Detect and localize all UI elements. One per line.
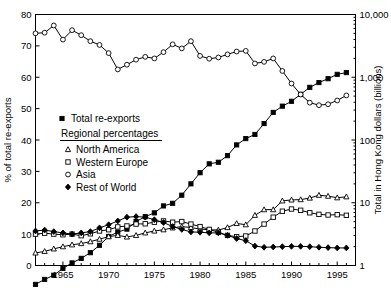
data-point [280, 209, 284, 213]
data-point [280, 104, 284, 108]
data-point [271, 215, 275, 219]
data-point [298, 243, 303, 249]
legend: Total re-exportsRegional percentagesNort… [60, 113, 162, 193]
y-tick-label: 20 [21, 197, 32, 208]
data-point [134, 222, 138, 226]
data-point [65, 147, 70, 152]
data-point [335, 72, 339, 76]
data-point [115, 218, 120, 224]
data-point [152, 56, 157, 61]
data-point [189, 182, 193, 186]
y-axis-title: % of total re-exports [2, 97, 13, 182]
y2-tick-label: 10,000 [360, 9, 389, 20]
data-point [344, 93, 349, 98]
y-tick-label: 0 [26, 260, 31, 271]
data-point [262, 59, 267, 64]
data-point [289, 99, 293, 103]
data-point [66, 172, 71, 177]
data-point [344, 71, 348, 75]
data-point [88, 39, 93, 44]
legend-item-label: North America [76, 144, 140, 155]
data-point [225, 154, 229, 158]
data-point [317, 103, 322, 108]
data-point [143, 54, 148, 59]
data-point [243, 238, 248, 244]
legend-item-label: Asia [76, 169, 96, 180]
data-point [216, 55, 221, 60]
data-point [42, 30, 47, 35]
data-point [308, 85, 312, 89]
y-tick-label: 50 [21, 103, 32, 114]
data-point [161, 204, 165, 208]
data-point [307, 244, 312, 250]
data-point [125, 62, 130, 67]
data-point [344, 213, 348, 217]
x-axis: 1965197019751980198519901995 [45, 262, 356, 280]
data-point [289, 81, 294, 86]
y-axis-right: 1101001,00010,000Total in Hong Kong doll… [352, 9, 389, 271]
data-point [33, 282, 37, 286]
data-point [335, 98, 340, 103]
data-point [271, 56, 276, 61]
data-point [335, 245, 340, 251]
x-tick-label: 1990 [281, 269, 302, 280]
data-point [326, 102, 331, 107]
data-point [344, 245, 349, 251]
data-point [235, 143, 239, 147]
data-point [33, 31, 38, 36]
data-point [325, 245, 330, 251]
data-point [189, 39, 194, 44]
data-point [125, 224, 129, 228]
data-point [61, 266, 65, 270]
y-tick-label: 70 [21, 40, 32, 51]
x-tick-label: 1985 [235, 269, 256, 280]
data-point [161, 50, 166, 55]
data-point [326, 213, 330, 217]
data-point [97, 243, 101, 247]
data-point [253, 229, 257, 233]
y-tick-label: 10 [21, 229, 32, 240]
data-point [66, 160, 70, 164]
data-point [298, 92, 303, 97]
data-point [262, 222, 266, 226]
x-tick-label: 1995 [327, 269, 348, 280]
data-point [79, 256, 83, 260]
data-point [106, 222, 111, 228]
data-point [106, 51, 111, 56]
data-point [116, 225, 120, 229]
data-point [244, 136, 248, 140]
data-point [316, 244, 321, 250]
data-point [280, 244, 285, 250]
data-point [262, 121, 266, 125]
data-point [326, 77, 330, 81]
data-point [61, 37, 66, 42]
data-point [198, 171, 202, 175]
data-point [70, 261, 74, 265]
data-point [171, 201, 175, 205]
y-tick-label: 40 [21, 135, 32, 146]
data-point [124, 214, 129, 220]
data-point [70, 28, 75, 33]
legend-item-label: Western Europe [76, 157, 149, 168]
legend-item-label: Rest of World [76, 182, 136, 193]
data-point [252, 213, 257, 218]
data-point [65, 184, 70, 190]
data-point [289, 243, 294, 249]
data-point [316, 192, 321, 197]
data-point [52, 273, 56, 277]
data-point [317, 80, 321, 84]
y-tick-label: 60 [21, 72, 32, 83]
y2-tick-label: 1 [360, 260, 365, 271]
data-point [189, 222, 193, 226]
data-point [271, 244, 276, 250]
x-tick-label: 1980 [190, 269, 211, 280]
data-point [51, 23, 56, 28]
data-point [179, 46, 184, 51]
chart-svg: 1965197019751980198519901995010203040506… [0, 0, 391, 297]
data-point [216, 160, 220, 164]
data-point [252, 243, 257, 249]
data-point [180, 219, 184, 223]
data-point [234, 221, 239, 226]
series-asia [33, 23, 349, 107]
data-point [133, 214, 138, 220]
